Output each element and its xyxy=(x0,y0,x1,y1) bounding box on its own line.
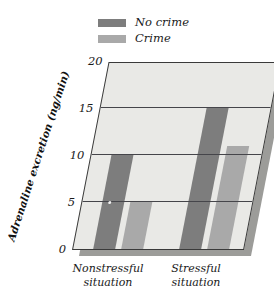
category-label-nonstressful: Nonstressful situation xyxy=(62,262,154,290)
y-tick-label-15: 15 xyxy=(67,103,93,115)
legend-label-crime: Crime xyxy=(135,33,171,45)
category-label-nonstressful-line1: Nonstressful xyxy=(62,262,154,276)
category-label-nonstressful-line2: situation xyxy=(62,276,154,290)
chart-legend: No crime Crime xyxy=(98,16,189,48)
legend-item-crime: Crime xyxy=(98,32,189,46)
legend-swatch-crime xyxy=(98,35,126,43)
adrenaline-excretion-bar-chart: No crime Crime 05101520 Adrenaline excre… xyxy=(0,0,274,300)
legend-swatch-no-crime xyxy=(98,19,126,27)
legend-item-no-crime: No crime xyxy=(98,16,189,30)
plot-area xyxy=(72,62,274,250)
gridline-10 xyxy=(91,154,261,155)
legend-label-no-crime: No crime xyxy=(135,17,189,29)
y-tick-label-10: 10 xyxy=(58,150,84,162)
y-tick-label-0: 0 xyxy=(40,244,66,256)
category-label-stressful: Stressful situation xyxy=(150,262,242,290)
y-tick-label-20: 20 xyxy=(77,56,103,68)
y-tick-label-5: 5 xyxy=(49,197,75,209)
bar-crime-0 xyxy=(121,202,152,249)
gridline-15 xyxy=(101,107,271,108)
category-label-stressful-line2: situation xyxy=(150,276,242,290)
category-label-stressful-line1: Stressful xyxy=(150,262,242,276)
